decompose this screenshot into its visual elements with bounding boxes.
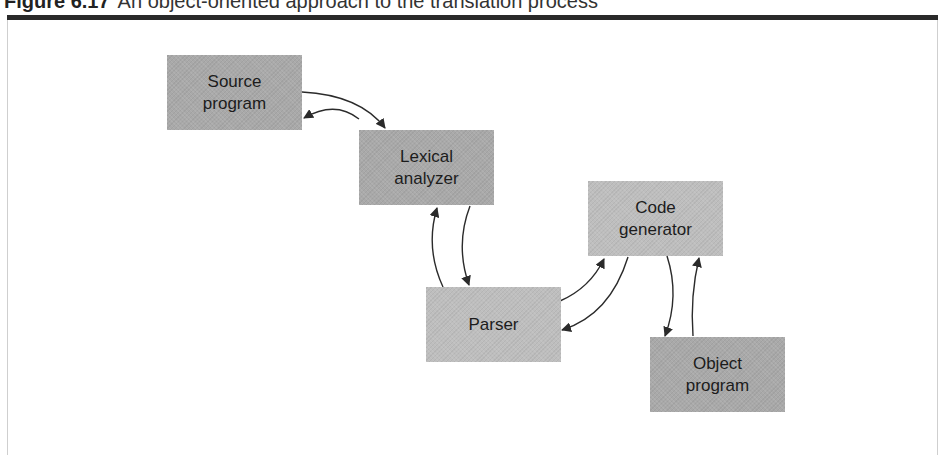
edge-codegen-to-object <box>665 256 673 336</box>
edge-object-to-codegen <box>692 258 699 336</box>
node-label: Object <box>686 353 749 375</box>
node-code-generator: Code generator <box>588 181 723 256</box>
node-source-program: Source program <box>167 55 302 130</box>
node-label: analyzer <box>394 168 458 190</box>
node-label: Parser <box>468 314 518 336</box>
node-label: program <box>686 375 749 397</box>
node-label: Lexical <box>394 146 458 168</box>
node-label: program <box>203 93 266 115</box>
node-label: Source <box>203 71 266 93</box>
edge-parser-to-codegen <box>560 259 604 301</box>
node-object-program: Object program <box>650 337 785 412</box>
node-parser: Parser <box>426 287 561 362</box>
edge-lexical-to-parser <box>462 206 470 285</box>
edge-lexical-to-source <box>304 109 359 119</box>
node-label: Code <box>619 197 692 219</box>
edge-source-to-lexical <box>302 92 385 128</box>
edge-codegen-to-parser <box>562 257 628 330</box>
node-label: generator <box>619 219 692 241</box>
node-lexical-analyzer: Lexical analyzer <box>359 130 494 205</box>
edge-parser-to-lexical <box>432 208 443 287</box>
